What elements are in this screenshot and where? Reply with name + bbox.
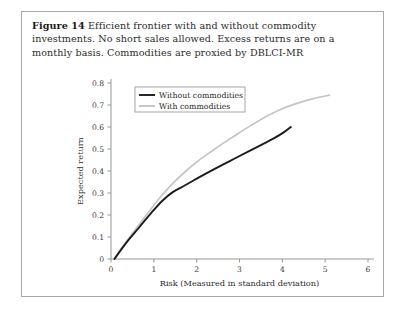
y-tick-label: 0.2 xyxy=(92,211,104,220)
x-tick-label: 4 xyxy=(280,265,285,274)
y-tick-label: 0.4 xyxy=(92,167,104,176)
x-axis-title: Risk (Measured in standard deviation) xyxy=(160,278,319,288)
y-tick-label: 0.3 xyxy=(92,189,104,198)
x-tick-label: 1 xyxy=(151,265,156,274)
chart-legend: Without commoditiesWith commodities xyxy=(135,87,245,112)
x-axis-ticks: 0123456 xyxy=(109,259,371,274)
y-tick-label: 0.6 xyxy=(92,123,104,132)
y-tick-label: 0 xyxy=(99,255,104,264)
series-line-with-commodities xyxy=(114,95,329,259)
y-tick-label: 0.1 xyxy=(92,233,104,242)
chart-plot-area: 00.10.20.30.40.50.60.70.8 0123456 Risk (… xyxy=(22,12,385,298)
chart-series-group xyxy=(114,95,329,259)
x-tick-label: 2 xyxy=(194,265,199,274)
y-tick-label: 0.7 xyxy=(92,101,104,110)
legend-label-with-commodities: With commodities xyxy=(159,102,230,111)
y-axis-title: Expected return xyxy=(75,136,85,204)
y-axis-ticks: 00.10.20.30.40.50.60.70.8 xyxy=(92,79,111,264)
x-tick-label: 3 xyxy=(237,265,242,274)
y-tick-label: 0.5 xyxy=(92,145,104,154)
efficient-frontier-chart: 00.10.20.30.40.50.60.70.8 0123456 Risk (… xyxy=(22,12,385,298)
legend-label-without-commodities: Without commodities xyxy=(159,91,243,100)
x-tick-label: 5 xyxy=(323,265,328,274)
y-tick-label: 0.8 xyxy=(92,79,104,88)
x-tick-label: 6 xyxy=(366,265,371,274)
series-line-without-commodities xyxy=(114,127,290,259)
x-tick-label: 0 xyxy=(109,265,114,274)
figure-panel: Figure 14 Efficient frontier with and wi… xyxy=(21,11,384,297)
